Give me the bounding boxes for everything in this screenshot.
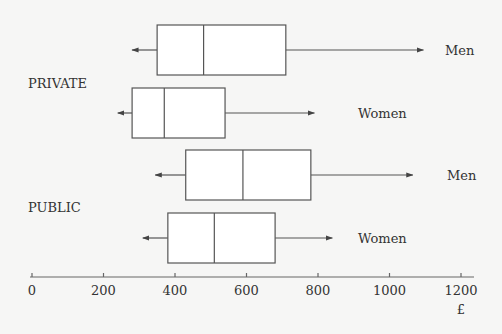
iqr-box bbox=[157, 25, 286, 75]
x-tick-label: 400 bbox=[163, 283, 188, 298]
x-tick-label: 1000 bbox=[373, 283, 406, 298]
x-tick-label: 0 bbox=[28, 283, 36, 298]
group-label-public: PUBLIC bbox=[28, 200, 81, 215]
group-label-private: PRIVATE bbox=[28, 76, 87, 91]
x-axis-label: £ bbox=[457, 302, 465, 317]
iqr-box bbox=[132, 88, 225, 138]
x-axis: £ 020040060080010001200 bbox=[28, 273, 478, 317]
series-label: Women bbox=[358, 231, 407, 246]
x-tick-label: 1200 bbox=[444, 283, 477, 298]
iqr-box bbox=[186, 150, 311, 200]
series-label: Men bbox=[445, 43, 475, 58]
series-label: Men bbox=[447, 168, 477, 183]
box-private-women: Women bbox=[118, 88, 408, 138]
series-label: Women bbox=[358, 106, 407, 121]
x-tick-label: 800 bbox=[306, 283, 331, 298]
iqr-box bbox=[168, 213, 275, 263]
box-plot-chart: PRIVATEMenWomenPUBLICMenWomen £ 02004006… bbox=[0, 0, 502, 334]
x-tick-label: 600 bbox=[234, 283, 259, 298]
box-public-women: Women bbox=[143, 213, 408, 263]
box-public-men: Men bbox=[155, 150, 477, 200]
plot-area: PRIVATEMenWomenPUBLICMenWomen bbox=[28, 25, 477, 263]
box-private-men: Men bbox=[132, 25, 475, 75]
x-tick-label: 200 bbox=[91, 283, 116, 298]
